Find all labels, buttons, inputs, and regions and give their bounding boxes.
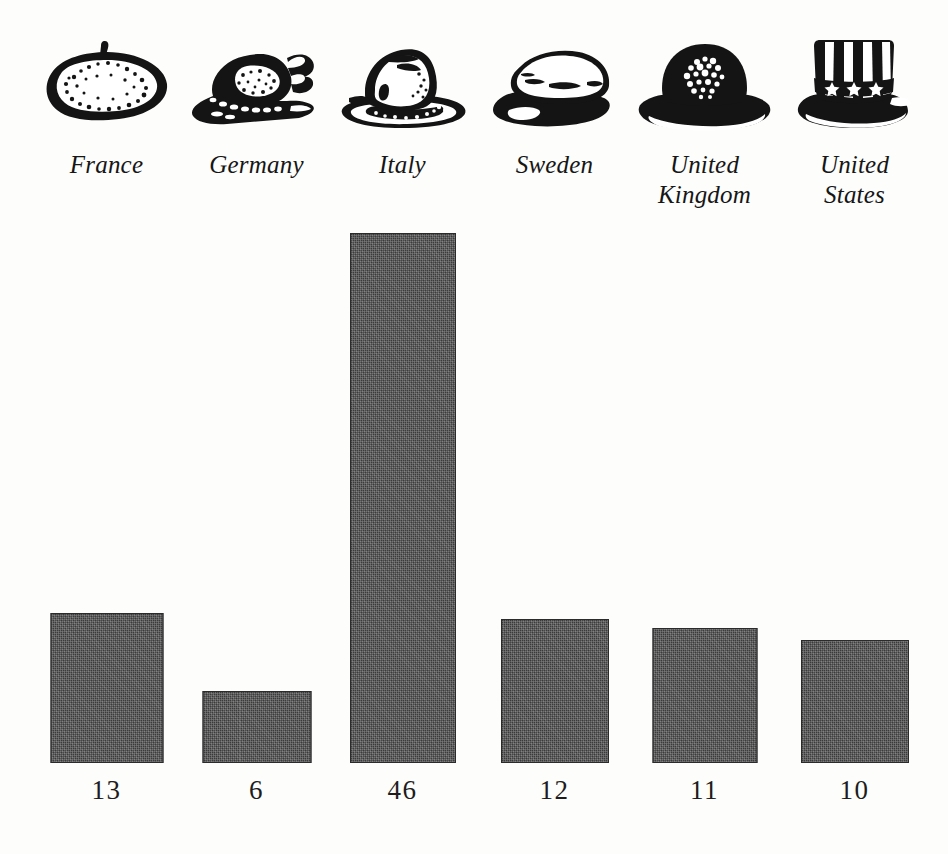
country-label-line1: Italy bbox=[330, 150, 475, 180]
value-label-germany: 6 bbox=[184, 775, 329, 805]
bowler-hat-icon bbox=[632, 28, 777, 136]
chart-column-italy: Italy 46 bbox=[330, 0, 475, 854]
bar-united-states bbox=[801, 640, 909, 763]
country-label-line1: United bbox=[632, 150, 777, 180]
country-label-italy: Italy bbox=[330, 150, 475, 180]
chart-column-germany: Germany 6 bbox=[184, 0, 329, 854]
fedora-hat-icon bbox=[330, 28, 475, 136]
bar-area-united-kingdom bbox=[632, 200, 777, 763]
value-label-united-kingdom: 11 bbox=[632, 775, 777, 805]
value-label-united-states: 10 bbox=[782, 775, 927, 805]
bar-area-united-states bbox=[782, 200, 927, 763]
chart-column-united-states: United States 10 bbox=[782, 0, 927, 854]
country-label-line1: United bbox=[782, 150, 927, 180]
beret-hat-icon bbox=[34, 28, 179, 136]
chart-column-france: France 13 bbox=[34, 0, 179, 854]
bar-area-italy bbox=[330, 200, 475, 763]
value-label-italy: 46 bbox=[330, 775, 475, 805]
bar-area-france bbox=[34, 200, 179, 763]
bar-germany bbox=[202, 691, 311, 763]
bar-area-sweden bbox=[482, 200, 627, 763]
country-label-line1: France bbox=[34, 150, 179, 180]
national-hats-bar-chart: France 13 bbox=[0, 0, 948, 854]
bar-area-germany bbox=[184, 200, 329, 763]
country-label-germany: Germany bbox=[184, 150, 329, 180]
country-label-line1: Germany bbox=[184, 150, 329, 180]
value-label-france: 13 bbox=[34, 775, 179, 805]
value-label-sweden: 12 bbox=[482, 775, 627, 805]
bar-united-kingdom bbox=[652, 628, 757, 763]
bar-italy bbox=[350, 233, 456, 763]
uncle-sam-top-hat-icon bbox=[782, 28, 927, 136]
country-label-sweden: Sweden bbox=[482, 150, 627, 180]
chart-column-sweden: Sweden 12 bbox=[482, 0, 627, 854]
tyrolean-hat-icon bbox=[184, 28, 329, 136]
flat-cap-icon bbox=[482, 28, 627, 136]
country-label-line1: Sweden bbox=[482, 150, 627, 180]
country-label-france: France bbox=[34, 150, 179, 180]
chart-column-united-kingdom: United Kingdom 11 bbox=[632, 0, 777, 854]
bar-france bbox=[50, 613, 163, 763]
bar-sweden bbox=[501, 619, 609, 763]
